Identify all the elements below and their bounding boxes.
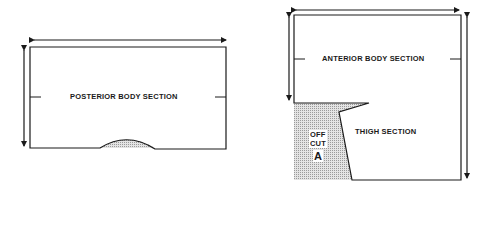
anterior-label: ANTERIOR BODY SECTION — [322, 54, 424, 63]
posterior-label: POSTERIOR BODY SECTION — [70, 92, 178, 101]
offcut-line1: OFF — [309, 130, 327, 139]
thigh-label: THIGH SECTION — [355, 127, 416, 136]
offcut-letter: A — [313, 150, 323, 162]
offcut-shade — [294, 103, 369, 180]
offcut-line2: CUT — [309, 139, 327, 148]
